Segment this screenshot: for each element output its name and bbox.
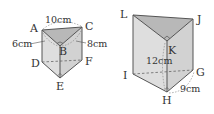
vertex-label-j: J (196, 13, 201, 26)
vertex-label-h: H (162, 94, 172, 107)
vertex-label-l: L (120, 8, 128, 21)
triangular-prisms-diagram: A C B D F E 10cm 6cm 8cm L J K I G H 12c… (0, 0, 214, 114)
prism-right: L J K I G H 12cm 9cm (120, 8, 205, 107)
vertex-label-a: A (29, 22, 39, 35)
vertex-label-i: I (123, 69, 127, 82)
dimension-ac: 10cm (45, 14, 71, 25)
vertex-label-f: F (85, 55, 93, 68)
dimension-bc: 8cm (87, 38, 107, 49)
dimension-ab: 6cm (12, 38, 32, 49)
vertex-label-g: G (196, 66, 205, 79)
vertex-label-d: D (31, 57, 40, 70)
vertex-label-c: C (85, 20, 93, 33)
vertex-label-b: B (59, 45, 67, 58)
vertex-label-e: E (56, 80, 64, 93)
dimension-hg: 9cm (180, 83, 200, 94)
dimension-height: 12cm (146, 55, 172, 66)
prism-left: A C B D F E 10cm 6cm 8cm (12, 14, 107, 93)
